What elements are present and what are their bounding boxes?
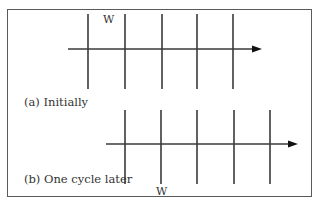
panel-b-diagram — [106, 110, 298, 184]
arrowhead-icon — [288, 141, 298, 148]
panel-b-caption: (b) One cycle later — [24, 174, 132, 186]
panel-b-w-label: W — [156, 186, 167, 197]
panel-a-diagram — [68, 14, 262, 89]
arrowhead-icon — [252, 46, 262, 53]
panel-a-caption: (a) Initially — [24, 97, 88, 109]
panel-a-w-label: W — [103, 14, 114, 25]
